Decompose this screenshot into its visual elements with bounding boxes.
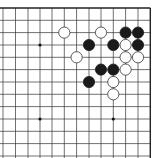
black-stone[interactable] [132, 27, 143, 38]
white-stone[interactable] [120, 64, 131, 75]
white-stone[interactable] [108, 76, 119, 87]
white-stone[interactable] [132, 52, 143, 63]
black-stone[interactable] [132, 39, 143, 50]
white-stone[interactable] [95, 27, 106, 38]
star-point [38, 117, 41, 120]
black-stone[interactable] [83, 76, 94, 87]
white-stone[interactable] [120, 52, 131, 63]
star-point [112, 117, 115, 120]
white-stone[interactable] [108, 89, 119, 100]
black-stone[interactable] [83, 39, 94, 50]
star-point [38, 43, 41, 46]
white-stone[interactable] [120, 39, 131, 50]
black-stone[interactable] [95, 64, 106, 75]
black-stone[interactable] [108, 39, 119, 50]
go-board[interactable] [0, 0, 154, 158]
white-stone[interactable] [71, 52, 82, 63]
black-stone[interactable] [120, 27, 131, 38]
white-stone[interactable] [59, 27, 70, 38]
black-stone[interactable] [108, 64, 119, 75]
